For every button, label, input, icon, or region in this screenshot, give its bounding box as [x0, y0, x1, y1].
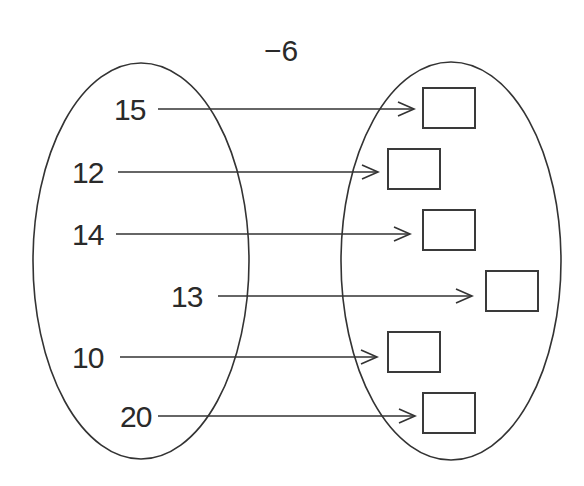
input-value: 13 — [171, 282, 202, 312]
input-value: 15 — [114, 95, 145, 125]
input-value: 20 — [120, 402, 151, 432]
answer-box[interactable] — [387, 331, 441, 373]
arrow-10 — [120, 350, 377, 364]
arrow-13 — [218, 289, 472, 303]
answer-box[interactable] — [387, 148, 441, 190]
input-value: 12 — [72, 158, 103, 188]
answer-box[interactable] — [422, 209, 476, 251]
answer-box[interactable] — [485, 270, 539, 312]
input-value: 14 — [72, 220, 103, 250]
function-mapping-diagram: −6 15 12 14 13 10 20 — [0, 0, 584, 486]
answer-box[interactable] — [422, 87, 476, 129]
operation-label: −6 — [264, 36, 298, 66]
arrow-20 — [158, 409, 415, 423]
arrow-15 — [158, 102, 414, 116]
answer-box[interactable] — [422, 392, 476, 434]
arrow-12 — [118, 165, 378, 179]
arrow-14 — [116, 227, 410, 241]
input-value: 10 — [72, 343, 103, 373]
